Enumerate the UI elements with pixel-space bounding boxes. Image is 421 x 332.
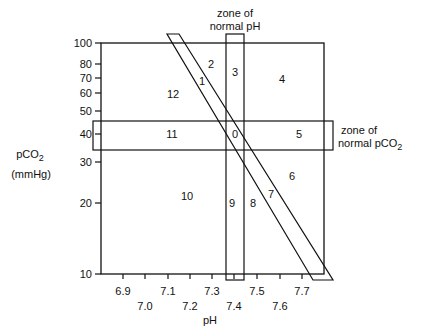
x-tick-7.5: 7.5 xyxy=(244,285,270,297)
x-tick-7.7: 7.7 xyxy=(289,285,315,297)
region-2: 2 xyxy=(201,58,221,70)
region-8: 8 xyxy=(243,197,263,209)
x-ticks xyxy=(123,274,302,279)
y-tick-80: 80 xyxy=(62,58,92,70)
y-tick-40: 40 xyxy=(62,128,92,140)
region-10: 10 xyxy=(177,190,197,202)
region-9: 9 xyxy=(222,197,242,209)
diagonal-band xyxy=(167,34,333,280)
x-tick-7.1: 7.1 xyxy=(155,285,181,297)
region-1: 1 xyxy=(192,75,212,87)
y-tick-70: 70 xyxy=(62,72,92,84)
pco2-zone-label-line1: zone of xyxy=(341,124,377,136)
y-tick-100: 100 xyxy=(62,37,92,49)
pco2-zone-label-line2: normal pCO2 xyxy=(338,137,402,153)
ph-zone-label-line1: zone of xyxy=(205,7,265,19)
region-3: 3 xyxy=(225,66,245,78)
x-tick-7.0: 7.0 xyxy=(132,300,158,312)
region-5: 5 xyxy=(289,128,309,140)
y-tick-60: 60 xyxy=(62,87,92,99)
region-11: 11 xyxy=(162,128,182,140)
region-6: 6 xyxy=(282,170,302,182)
region-0: 0 xyxy=(225,128,245,140)
x-tick-7.3: 7.3 xyxy=(199,285,225,297)
y-axis-unit: (mmHg) xyxy=(6,168,56,180)
x-tick-7.4: 7.4 xyxy=(221,300,247,312)
y-ticks xyxy=(95,43,101,274)
region-4: 4 xyxy=(272,73,292,85)
ph-zone-label-line2: normal pH xyxy=(200,20,270,32)
y-tick-30: 30 xyxy=(62,156,92,168)
x-axis-label: pH xyxy=(200,314,220,326)
region-12: 12 xyxy=(163,88,183,100)
y-tick-20: 20 xyxy=(62,197,92,209)
region-7: 7 xyxy=(261,188,281,200)
x-tick-7.6: 7.6 xyxy=(267,300,293,312)
x-tick-6.9: 6.9 xyxy=(110,285,136,297)
y-tick-10: 10 xyxy=(62,268,92,280)
x-tick-7.2: 7.2 xyxy=(177,300,203,312)
y-axis-label: pCO2 xyxy=(10,148,50,164)
y-tick-50: 50 xyxy=(62,105,92,117)
